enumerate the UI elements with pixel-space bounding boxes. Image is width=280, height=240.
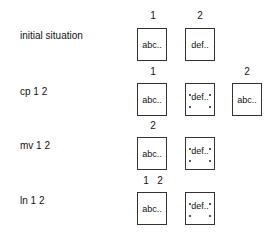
orphan-dot	[189, 215, 191, 217]
file-box-abc: abc..	[137, 28, 167, 61]
file-box-abc: abc..	[137, 192, 167, 225]
orphan-dot	[209, 203, 211, 205]
row-label-initial: initial situation	[20, 30, 83, 41]
file-box-abc: abc..	[137, 83, 167, 116]
file-box-abc-copy: abc..	[232, 83, 262, 116]
orphan-dot	[189, 160, 191, 162]
orphan-dot	[209, 215, 211, 217]
orphan-dot	[189, 148, 191, 150]
file-box-abc: abc..	[137, 137, 167, 170]
name-label-2: 2	[184, 10, 216, 21]
name-label-2: 2	[144, 175, 176, 186]
name-label-2: 2	[231, 66, 263, 77]
orphan-dot	[189, 106, 191, 108]
file-box-def-orphaned: def..	[185, 192, 215, 225]
file-box-def-orphaned: def..	[185, 83, 215, 116]
orphan-dot	[209, 106, 211, 108]
row-label-ln: ln 1 2	[20, 195, 44, 206]
file-box-def-orphaned: def..	[185, 137, 215, 170]
file-box-def: def..	[185, 28, 215, 61]
orphan-dot	[189, 203, 191, 205]
orphan-dot	[209, 160, 211, 162]
name-label-1: 1	[137, 66, 169, 77]
orphan-dot	[209, 148, 211, 150]
orphan-dot	[189, 94, 191, 96]
row-label-mv: mv 1 2	[20, 140, 50, 151]
name-label-1: 1	[137, 10, 169, 21]
orphan-dot	[209, 94, 211, 96]
name-label-2: 2	[137, 120, 169, 131]
row-label-cp: cp 1 2	[20, 86, 47, 97]
